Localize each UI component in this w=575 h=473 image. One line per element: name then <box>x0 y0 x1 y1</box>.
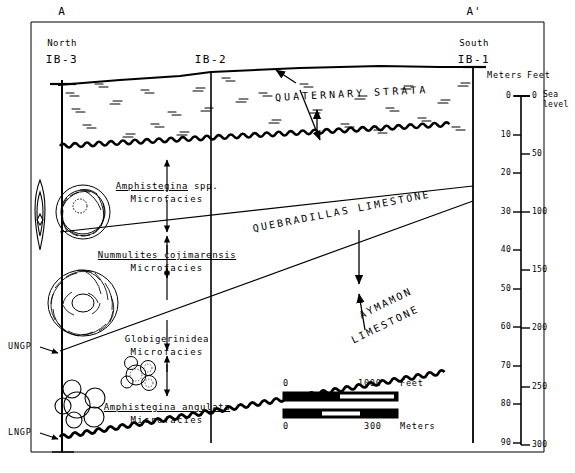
microfacies-taxon-4: Amphistegina angulata <box>104 402 230 412</box>
fossil-spiral-foram-amphistegina <box>56 185 110 239</box>
depth-scale-axis <box>513 96 530 445</box>
direction-label-south: South <box>459 38 489 48</box>
fossil-globigerinid-foram-b <box>121 357 157 391</box>
microfacies-taxon-3: Globigerinidea <box>125 334 209 344</box>
depth-scale-header-feet: Feet <box>527 71 551 81</box>
meters-tick-20: 20 <box>496 168 511 177</box>
fossil-lens-shaped-foram <box>35 180 45 250</box>
bar-scale-meters <box>283 409 398 418</box>
cross-section-figure: A A' North IB-3 IB-2 South IB-1 QUATERNA… <box>0 0 575 473</box>
meters-tick-80: 80 <box>496 399 511 408</box>
depth-scale-feet-ticks <box>521 96 530 445</box>
bar-scale-feet <box>283 392 398 401</box>
depth-scale-meter-ticks <box>513 96 521 443</box>
microfacies-sub-4: Microfacies <box>131 415 204 425</box>
depth-scale-header-meters: Meters <box>487 71 523 81</box>
quaternary-base-unconformity <box>60 122 450 148</box>
feet-tick-50: 50 <box>532 149 542 158</box>
feet-tick-250: 250 <box>532 382 547 391</box>
fossil-large-nummulites-foram <box>48 270 118 336</box>
ground-surface-line <box>58 66 473 85</box>
feet-tick-150: 150 <box>532 265 547 274</box>
microfacies-qualifier-1: spp. <box>188 181 218 191</box>
feet-tick-0: 0 <box>532 91 537 100</box>
bar-scale-meters-unit: Meters <box>400 422 436 432</box>
meters-tick-50: 50 <box>496 284 511 293</box>
pick-label-lngp: LNGP <box>8 428 32 438</box>
pick-label-ungp: UNGP <box>8 342 32 352</box>
meters-tick-30: 30 <box>496 207 511 216</box>
microfacies-label-amphistegina-angulata: Amphistegina angulata <box>104 402 230 412</box>
sea-level-note-line1: Sea <box>543 91 558 99</box>
section-endpoint-left: A <box>58 6 66 19</box>
well-label-ib-1[interactable]: IB-1 <box>458 54 491 67</box>
feet-tick-300: 300 <box>532 440 547 449</box>
meters-tick-0: 0 <box>500 91 511 100</box>
microfacies-label-amphistegina-spp: Amphistegina spp. <box>116 181 218 191</box>
feet-tick-200: 200 <box>532 323 547 332</box>
meters-tick-90: 90 <box>496 438 511 447</box>
bar-scale-meters-min: 0 <box>283 422 289 432</box>
microfacies-sub-1: Microfacies <box>131 194 204 204</box>
direction-label-north: North <box>47 38 77 48</box>
well-label-ib-3[interactable]: IB-3 <box>46 54 79 67</box>
bar-scale-feet-min: 0 <box>283 379 289 389</box>
section-endpoint-right: A' <box>466 6 481 19</box>
microfacies-sub-2: Microfacies <box>131 263 204 273</box>
microfacies-taxon-1: Amphistegina <box>116 181 188 191</box>
meters-tick-10: 10 <box>496 130 511 139</box>
bar-scale-feet-unit: Feet <box>400 379 424 389</box>
meters-tick-70: 70 <box>496 361 511 370</box>
bar-scale-feet-max: 1000 <box>358 379 382 389</box>
microfacies-label-nummulites-cojimarensis: Nummulites cojimarensis <box>98 250 236 260</box>
microfacies-sub-3: Microfacies <box>131 347 204 357</box>
feet-tick-100: 100 <box>532 207 547 216</box>
well-label-ib-2[interactable]: IB-2 <box>195 54 228 67</box>
meters-tick-40: 40 <box>496 245 511 254</box>
meters-tick-60: 60 <box>496 322 511 331</box>
microfacies-taxon-2: Nummulites cojimarensis <box>98 250 236 260</box>
bar-scale-meters-max: 300 <box>364 422 382 432</box>
sea-level-note-line2: level <box>543 101 569 109</box>
microfacies-label-globigerinidea: Globigerinidea <box>125 334 209 344</box>
pick-leader-arrows <box>40 347 58 439</box>
